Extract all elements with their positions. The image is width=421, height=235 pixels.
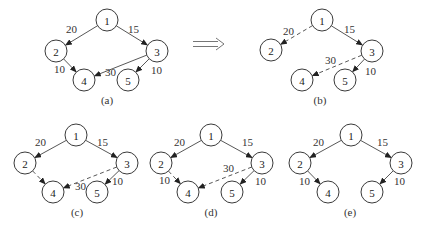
edge-weight-3-4: 30 [325, 54, 337, 66]
edge-weight-3-4: 30 [75, 180, 87, 192]
node-2: 2 [14, 152, 36, 174]
node-2: 2 [150, 152, 172, 174]
edge-3-5 [136, 59, 149, 72]
edge-weight-3-5: 10 [365, 65, 377, 77]
edge-weight-2-4: 10 [299, 175, 311, 187]
node-4: 4 [317, 181, 339, 203]
node-label: 5 [369, 187, 375, 199]
node-5: 5 [117, 69, 139, 91]
node-5: 5 [86, 181, 108, 203]
panel-b: 2015301012345(b) [260, 9, 383, 107]
node-label: 5 [342, 75, 348, 87]
node-label: 3 [369, 46, 375, 58]
node-label: 2 [158, 158, 164, 170]
panel-c: 2015301012345(c) [14, 124, 138, 219]
edge-2-4 [64, 59, 76, 72]
node-label: 3 [398, 158, 404, 170]
node-4: 4 [177, 181, 199, 203]
node-1: 1 [200, 124, 222, 146]
edge-2-4 [169, 171, 181, 184]
node-4: 4 [42, 181, 64, 203]
node-2: 2 [260, 39, 282, 61]
edge-weight-2-4: 10 [159, 174, 171, 186]
node-1: 1 [96, 9, 118, 31]
node-5: 5 [221, 181, 243, 203]
edge-weight-1-2: 20 [174, 136, 186, 148]
node-5: 5 [361, 181, 383, 203]
node-label: 4 [81, 75, 87, 87]
node-4: 4 [73, 69, 95, 91]
edge-3-5 [353, 59, 365, 72]
node-label: 3 [154, 46, 160, 58]
node-label: 2 [268, 45, 274, 57]
edge-weight-3-5: 10 [151, 64, 163, 76]
edge-weight-1-3: 15 [344, 23, 356, 35]
edge-weight-1-2: 20 [283, 25, 295, 37]
node-label: 3 [124, 158, 130, 170]
node-3: 3 [361, 40, 383, 62]
node-1: 1 [340, 124, 362, 146]
node-5: 5 [334, 69, 356, 91]
edge-weight-1-2: 20 [66, 23, 78, 35]
node-3: 3 [251, 152, 273, 174]
node-label: 1 [73, 130, 79, 142]
edge-3-5 [380, 171, 393, 184]
edge-weight-3-4: 30 [223, 162, 235, 174]
node-label: 2 [53, 46, 59, 58]
node-label: 5 [229, 187, 235, 199]
panel-e: 2015101012345(e) [289, 124, 412, 219]
edge-weight-3-4: 30 [105, 66, 117, 78]
edge-weight-3-5: 10 [112, 175, 124, 187]
node-3: 3 [116, 152, 138, 174]
edge-weight-3-5: 10 [255, 175, 267, 187]
panel-caption-e: (e) [344, 206, 357, 219]
node-label: 1 [104, 15, 110, 27]
panel-caption-a: (a) [101, 94, 114, 107]
node-label: 4 [50, 187, 56, 199]
edge-weight-1-3: 15 [128, 23, 140, 35]
node-2: 2 [45, 40, 67, 62]
panel-caption-b: (b) [314, 94, 327, 107]
edge-weight-2-4: 10 [54, 63, 66, 75]
node-label: 2 [22, 158, 28, 170]
node-label: 5 [125, 75, 131, 87]
edge-weight-1-2: 20 [313, 136, 325, 148]
node-label: 2 [297, 158, 303, 170]
transition-arrow-icon [193, 38, 224, 50]
edge-weight-3-5: 10 [394, 175, 406, 187]
node-1: 1 [65, 124, 87, 146]
edge-weight-1-3: 15 [242, 136, 254, 148]
node-label: 3 [259, 158, 265, 170]
edge-2-4 [33, 171, 45, 184]
node-3: 3 [390, 152, 412, 174]
edge-weight-1-2: 20 [35, 136, 47, 148]
node-3: 3 [146, 40, 168, 62]
panel-caption-d: (d) [205, 206, 218, 219]
node-1: 1 [311, 9, 333, 31]
graph-figure: 201510301012345(a)2015301012345(b)201530… [0, 0, 421, 235]
node-label: 1 [319, 15, 325, 27]
node-label: 4 [325, 187, 331, 199]
node-4: 4 [291, 69, 313, 91]
edge-weight-1-3: 15 [377, 136, 389, 148]
node-label: 5 [94, 187, 100, 199]
panel-a: 201510301012345(a) [45, 9, 168, 107]
node-2: 2 [289, 152, 311, 174]
panel-d: 201510301012345(d) [150, 124, 273, 219]
edge-weight-1-3: 15 [97, 136, 109, 148]
node-label: 1 [208, 130, 214, 142]
panel-caption-c: (c) [71, 206, 84, 219]
edge-3-5 [240, 171, 254, 184]
node-label: 1 [348, 130, 354, 142]
node-label: 4 [299, 75, 305, 87]
node-label: 4 [185, 187, 191, 199]
